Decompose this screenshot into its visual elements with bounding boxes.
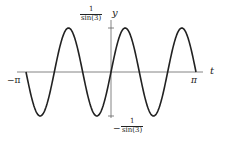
- y-axis-label: y: [112, 8, 118, 18]
- y-tick-label-top: 1 sin(3): [80, 6, 102, 22]
- y-bottom-denominator: sin(3): [121, 126, 143, 134]
- x-tick-label-max: π: [191, 76, 197, 85]
- y-bottom-numerator: 1: [129, 118, 135, 125]
- x-axis-label: t: [210, 66, 214, 76]
- y-top-denominator: sin(3): [80, 14, 102, 22]
- y-bottom-sign: −: [113, 123, 121, 133]
- y-top-numerator: 1: [88, 6, 94, 13]
- x-tick-label-min: −π: [7, 76, 20, 85]
- y-tick-label-bottom: 1 sin(3): [121, 118, 143, 134]
